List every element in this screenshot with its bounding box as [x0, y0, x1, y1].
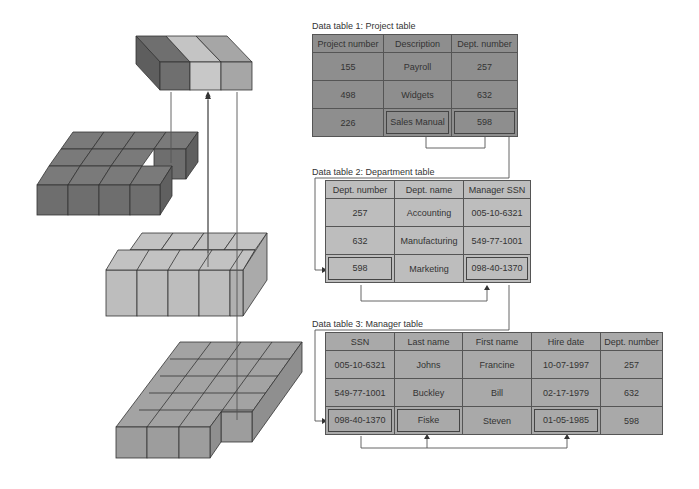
table-cell: 632 [452, 81, 518, 109]
manager-table-caption: Data table 3: Manager table [312, 319, 423, 329]
table-cell: 549-77-1001 [326, 379, 395, 407]
table-cell: 226 [313, 109, 384, 137]
table-cell: 10-07-1997 [532, 351, 601, 379]
result-block [136, 36, 252, 90]
table-cell: Johns [395, 351, 463, 379]
table-cell: 155 [313, 53, 384, 81]
table-cell: Payroll [384, 53, 452, 81]
table-cell: Manufacturing [395, 227, 464, 255]
column-header: SSN [326, 333, 395, 351]
cell-text: Sales Manual [386, 111, 449, 134]
manager-table: SSN Last name First name Hire date Dept.… [325, 332, 663, 435]
department-table-caption: Data table 2: Department table [312, 167, 435, 177]
column-header: Dept. name [395, 181, 464, 199]
table-row: 098-40-1370 Fiske Steven 01-05-1985 598 [326, 407, 663, 435]
table-cell: Widgets [384, 81, 452, 109]
table-cell: 005-10-6321 [464, 199, 531, 227]
table-cell: 549-77-1001 [464, 227, 531, 255]
table-cell: Marketing [395, 255, 464, 283]
column-header: Dept. number [452, 35, 518, 53]
department-block [106, 233, 267, 316]
table-cell: 02-17-1979 [532, 379, 601, 407]
cell-text: 01-05-1985 [534, 409, 598, 432]
table-cell: Accounting [395, 199, 464, 227]
table-cell: 257 [326, 199, 395, 227]
table-cell: Bill [463, 379, 532, 407]
manager-block [116, 342, 302, 458]
table-row: 632 Manufacturing 549-77-1001 [326, 227, 531, 255]
project-table-caption: Data table 1: Project table [312, 21, 416, 31]
highlighted-cell: 098-40-1370 [326, 407, 395, 435]
table-row: 549-77-1001 Buckley Bill 02-17-1979 632 [326, 379, 663, 407]
column-header: Project number [313, 35, 384, 53]
table-row: 226 Sales Manual 598 [313, 109, 518, 137]
table-row: 498 Widgets 632 [313, 81, 518, 109]
highlighted-cell: 01-05-1985 [532, 407, 601, 435]
column-header: Description [384, 35, 452, 53]
table-cell: 632 [601, 379, 663, 407]
table-cell: 632 [326, 227, 395, 255]
table-cell: 257 [601, 351, 663, 379]
highlighted-cell: 098-40-1370 [464, 255, 531, 283]
highlighted-cell: 598 [326, 255, 395, 283]
cell-text: 598 [454, 111, 515, 134]
table-row: 155 Payroll 257 [313, 53, 518, 81]
table-cell: 257 [452, 53, 518, 81]
table-row: 257 Accounting 005-10-6321 [326, 199, 531, 227]
table-row: 598 Marketing 098-40-1370 [326, 255, 531, 283]
department-table: Dept. number Dept. name Manager SSN 257 … [325, 180, 531, 283]
table-cell: 498 [313, 81, 384, 109]
project-table: Project number Description Dept. number … [312, 34, 518, 137]
table-cell: Buckley [395, 379, 463, 407]
cell-text: 598 [328, 257, 392, 280]
column-header: Manager SSN [464, 181, 531, 199]
column-header: Hire date [532, 333, 601, 351]
table-cell: 598 [601, 407, 663, 435]
table-cell: 005-10-6321 [326, 351, 395, 379]
table-row: 005-10-6321 Johns Francine 10-07-1997 25… [326, 351, 663, 379]
cell-text: Fiske [397, 409, 460, 432]
highlighted-cell: Fiske [395, 407, 463, 435]
column-header: Dept. number [601, 333, 663, 351]
highlighted-cell: Sales Manual [384, 109, 452, 137]
column-header: Last name [395, 333, 463, 351]
column-header: First name [463, 333, 532, 351]
column-header: Dept. number [326, 181, 395, 199]
table-cell: Steven [463, 407, 532, 435]
cell-text: 098-40-1370 [466, 257, 528, 280]
project-block [37, 132, 198, 215]
table-cell: Francine [463, 351, 532, 379]
cell-text: 098-40-1370 [328, 409, 392, 432]
highlighted-cell: 598 [452, 109, 518, 137]
